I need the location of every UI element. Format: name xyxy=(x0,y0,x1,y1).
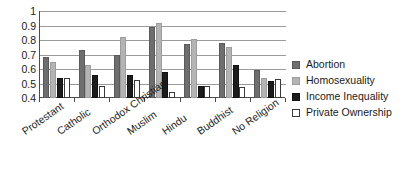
legend-item[interactable]: Homosexuality xyxy=(292,73,414,88)
bar xyxy=(198,86,204,98)
bar xyxy=(204,86,210,98)
y-axis-tick-label: 1 xyxy=(2,6,36,16)
bar xyxy=(50,62,56,98)
bar xyxy=(57,78,63,98)
legend-item-label: Private Ownership xyxy=(306,107,392,118)
bar xyxy=(92,75,98,98)
bar xyxy=(226,47,232,98)
bar xyxy=(85,65,91,98)
bar xyxy=(127,75,133,98)
legend-item-label: Homosexuality xyxy=(306,75,375,86)
bar-group xyxy=(79,11,105,98)
y-axis-tick-label: 0.6 xyxy=(2,64,36,74)
bar xyxy=(233,65,239,98)
legend-item[interactable]: Income Inequality xyxy=(292,89,414,104)
legend-item[interactable]: Abortion xyxy=(292,57,414,72)
bar xyxy=(114,55,120,99)
bar xyxy=(254,70,260,98)
bar-group xyxy=(184,11,210,98)
x-axis-category-label: Buddhist xyxy=(195,105,235,137)
bar xyxy=(275,79,281,98)
x-axis-category-label: No Religion xyxy=(230,97,281,137)
bar xyxy=(64,78,70,98)
bar xyxy=(184,44,190,98)
bar xyxy=(191,39,197,98)
x-axis: ProtestantCatholicOrthodox ChristianMusl… xyxy=(0,98,290,185)
legend-item-label: Income Inequality xyxy=(306,91,388,102)
chart-legend: AbortionHomosexualityIncome InequalityPr… xyxy=(292,57,414,121)
legend-swatch-homosexuality xyxy=(292,77,300,85)
bar xyxy=(99,86,105,98)
legend-item[interactable]: Private Ownership xyxy=(292,105,414,120)
legend-item-label: Abortion xyxy=(306,59,345,70)
legend-swatch-private-ownership xyxy=(292,109,300,117)
legend-swatch-abortion xyxy=(292,61,300,69)
bar xyxy=(261,78,267,98)
y-axis-tick-label: 0.7 xyxy=(2,50,36,60)
x-axis-category-label: Hindu xyxy=(160,112,189,137)
bar-group xyxy=(114,11,140,98)
grouped-bar-chart: 10.90.80.70.60.50.4 ProtestantCatholicOr… xyxy=(0,0,415,185)
bar-group xyxy=(254,11,280,98)
bar xyxy=(43,57,49,98)
bar xyxy=(219,43,225,98)
bar xyxy=(120,37,126,98)
bar xyxy=(79,50,85,98)
legend-swatch-income-inequality xyxy=(292,93,300,101)
y-axis-tick-label: 0.8 xyxy=(2,35,36,45)
bar-group xyxy=(219,11,245,98)
y-axis-tick-label: 0.5 xyxy=(2,79,36,89)
y-axis-tick-label: 0.9 xyxy=(2,21,36,31)
bar-group xyxy=(43,11,69,98)
y-axis: 10.90.80.70.60.50.4 xyxy=(0,11,36,98)
bar xyxy=(239,87,245,98)
